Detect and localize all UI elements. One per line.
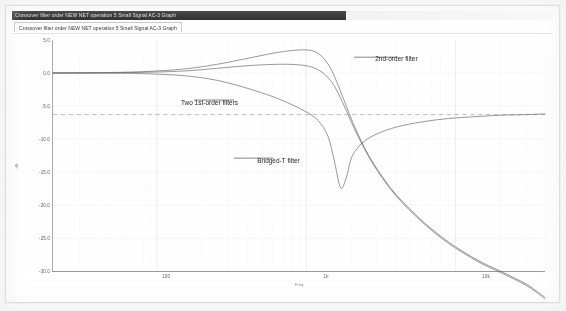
window-title: Crossover filter order NEW NET operation… xyxy=(12,11,176,20)
y-tick-label: -20.0 xyxy=(39,202,50,207)
x-tick-label: 10k xyxy=(482,274,490,279)
x-tick-label: 100 xyxy=(162,274,170,279)
tab-label: Crossover filter order NEW NET operation… xyxy=(19,23,177,33)
tab-graph[interactable]: Crossover filter order NEW NET operation… xyxy=(14,22,182,32)
annotation-two-1st-order-filters: Two 1st-order filters xyxy=(181,99,238,106)
scanned-page: Crossover filter order NEW NET operation… xyxy=(0,0,566,311)
y-tick-label: 5.0 xyxy=(43,38,50,43)
plot-container: dB 5.0 0.0 -5.0 -10.0 -15.0 -20.0 -25.0 … xyxy=(12,34,553,298)
y-tick-label: -15.0 xyxy=(39,169,50,174)
y-tick-label: -30.0 xyxy=(39,269,50,274)
gridlines xyxy=(53,40,545,271)
y-tick-label: -25.0 xyxy=(39,235,50,240)
x-tick-label: 1k xyxy=(324,274,329,279)
window-title-bar: Crossover filter order NEW NET operation… xyxy=(12,11,346,20)
y-axis-title: dB xyxy=(14,164,19,169)
y-tick-label: -5.0 xyxy=(42,103,50,108)
chart-canvas xyxy=(53,40,545,271)
series-curves xyxy=(53,50,545,299)
graph-window: Crossover filter order NEW NET operation… xyxy=(5,5,560,303)
x-axis-title: Freq xyxy=(295,282,304,287)
annotation-bridged-t-filter: Bridged-T filter xyxy=(257,157,300,164)
y-tick-label: -10.0 xyxy=(39,136,50,141)
y-tick-label: 0.0 xyxy=(43,70,50,75)
annotation-leaders xyxy=(194,57,397,158)
tab-strip: Crossover filter order NEW NET operation… xyxy=(12,22,553,34)
annotation-2nd-order-filter: 2nd-order filter xyxy=(375,55,417,62)
plot-axes: 5.0 0.0 -5.0 -10.0 -15.0 -20.0 -25.0 -30… xyxy=(52,40,545,272)
title-bar-filler xyxy=(346,11,553,20)
